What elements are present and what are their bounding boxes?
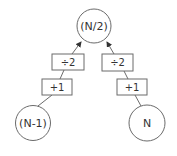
op-right-divide: ÷2 xyxy=(102,54,133,71)
op-left-divide: ÷2 xyxy=(52,54,84,70)
node-right-label: N xyxy=(143,117,151,130)
op-left-add-label: +1 xyxy=(50,82,65,93)
node-top-label: (N/2) xyxy=(80,20,108,33)
edge-right-add-to-divide xyxy=(124,71,128,79)
node-left-label: (N-1) xyxy=(19,117,47,130)
edge-left-to-add xyxy=(38,95,52,106)
op-left-divide-label: ÷2 xyxy=(61,57,76,68)
node-top: (N/2) xyxy=(77,9,111,43)
op-right-add-label: +1 xyxy=(125,82,140,93)
op-right-divide-label: ÷2 xyxy=(110,57,125,68)
op-right-add: +1 xyxy=(117,79,147,95)
node-right: N xyxy=(129,105,165,141)
edge-right-divide-to-top xyxy=(107,42,114,54)
edge-left-add-to-divide xyxy=(60,70,64,79)
node-left: (N-1) xyxy=(16,106,51,141)
op-left-add: +1 xyxy=(42,79,72,95)
edge-right-to-add xyxy=(135,95,141,106)
edge-left-divide-to-top xyxy=(72,42,81,54)
operation-tree-diagram: (N/2) ÷2 ÷2 +1 +1 (N-1) N xyxy=(0,0,177,156)
